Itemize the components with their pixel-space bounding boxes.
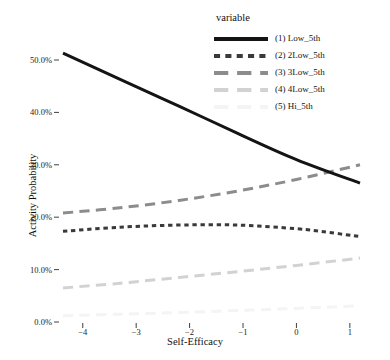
legend-swatch-5 xyxy=(213,100,269,114)
legend-item-label: (3) 3Low_5th xyxy=(275,68,325,77)
legend-swatch-4 xyxy=(213,83,269,97)
chart-legend: variable (1) Low_5th(2) 2Low_5th(3) 3Low… xyxy=(213,12,388,115)
x-axis-title: Self-Efficacy xyxy=(0,336,390,347)
legend-item: (2) 2Low_5th xyxy=(213,47,388,64)
legend-item: (5) Hi_5th xyxy=(213,98,388,115)
series-line xyxy=(63,165,360,213)
legend-item: (4) 4Low_5th xyxy=(213,81,388,98)
legend-title: variable xyxy=(216,12,388,23)
legend-item-label: (5) Hi_5th xyxy=(275,102,313,111)
legend-item: (1) Low_5th xyxy=(213,30,388,47)
legend-item-label: (2) 2Low_5th xyxy=(275,51,325,60)
legend-swatch-1 xyxy=(213,32,269,46)
legend-item-label: (4) 4Low_5th xyxy=(275,85,325,94)
y-tick-label: 0.0% xyxy=(0,317,52,327)
series-line xyxy=(63,258,360,288)
legend-swatch-2 xyxy=(213,49,269,63)
legend-swatch-3 xyxy=(213,66,269,80)
legend-item-label: (1) Low_5th xyxy=(275,34,320,43)
y-tick-label: 50.0% xyxy=(0,55,52,65)
series-line xyxy=(63,306,360,316)
legend-items: (1) Low_5th(2) 2Low_5th(3) 3Low_5th(4) 4… xyxy=(213,30,388,115)
chart-figure: 0.0%10.0%20.0%30.0%40.0%50.0% −4−3−2−101… xyxy=(0,0,390,360)
legend-item: (3) 3Low_5th xyxy=(213,64,388,81)
y-axis-title: Activity Probability xyxy=(27,116,38,276)
series-line xyxy=(63,225,360,237)
